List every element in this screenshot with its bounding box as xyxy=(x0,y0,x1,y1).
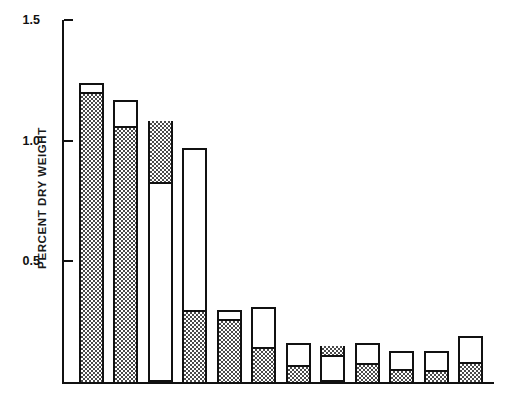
bar-cl xyxy=(355,343,380,382)
y-tick-label: 1.5 xyxy=(23,13,40,27)
bar-segment-shaded xyxy=(322,346,343,357)
bar-segment-shaded xyxy=(219,319,240,382)
bar-group xyxy=(62,20,494,382)
bar-mn xyxy=(424,351,449,382)
bar-segment-shaded xyxy=(391,369,412,382)
bar-segment-shaded xyxy=(460,362,481,383)
plot-area: 0.51.01.5 NCaKSiMgSAlPClFeMnNa xyxy=(62,20,494,384)
y-axis-title: PERCENT DRY WEIGHT xyxy=(36,68,48,328)
bar-al xyxy=(286,343,311,382)
bar-na xyxy=(458,336,483,382)
bar-segment-shaded xyxy=(357,363,378,382)
bar-segment-shaded xyxy=(184,310,205,382)
y-tick-label: 0.5 xyxy=(23,254,40,268)
bar-segment-shaded xyxy=(426,370,447,382)
bar-ca xyxy=(113,100,138,382)
bar-s xyxy=(251,307,276,382)
bar-k xyxy=(148,121,173,382)
bar-segment-shaded xyxy=(81,92,102,382)
bar-segment-shaded xyxy=(115,126,136,382)
bar-p xyxy=(320,346,345,382)
bar-segment-shaded xyxy=(253,347,274,382)
bar-n xyxy=(79,83,104,382)
bar-si xyxy=(182,148,207,382)
y-tick-label: 1.0 xyxy=(23,134,40,148)
chart-figure: PERCENT DRY WEIGHT 0.51.01.5 NCaKSiMgSAl… xyxy=(0,0,510,407)
bar-fe xyxy=(389,351,414,382)
bar-segment-shaded xyxy=(288,365,309,382)
bar-mg xyxy=(217,310,242,382)
bar-segment-shaded xyxy=(150,121,171,184)
x-axis-line xyxy=(62,382,494,384)
